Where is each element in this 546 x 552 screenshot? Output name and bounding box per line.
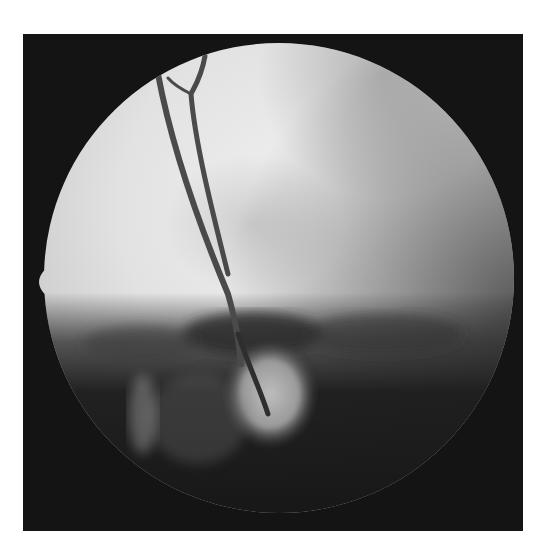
fundus-image-frame bbox=[23, 34, 523, 531]
fundus-photograph bbox=[23, 34, 523, 531]
field-of-view bbox=[23, 34, 523, 531]
